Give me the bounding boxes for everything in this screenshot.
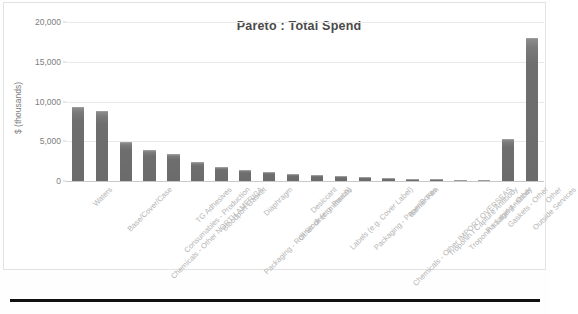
bar [191,162,203,181]
x-axis-labels: WatersBase/Cover/CaseChemicals - Other N… [66,183,544,271]
y-tick-label: 10,000 [35,97,61,107]
x-tick-label: Base/Cover/Case [125,185,173,233]
bar [167,154,179,181]
bar-series [66,22,544,181]
chart-frame: Pareto : Total Spend $ (thousands) 05,00… [3,2,546,270]
bar [239,170,251,181]
y-axis-title: $ (thousands) [13,63,23,153]
bar [215,167,227,181]
bar [143,150,155,181]
bar [96,111,108,181]
bar [72,107,84,181]
bar [263,172,275,181]
bar [287,174,299,181]
y-tick-label: 5,000 [40,136,61,146]
bar [502,139,514,181]
y-tick-label: 20,000 [35,17,61,27]
y-tick-label: 15,000 [35,57,61,67]
y-tick-label: 0 [56,176,61,186]
bar [120,142,132,181]
bar [526,38,538,181]
bottom-divider-rule [10,299,540,302]
plot-area: 05,00010,00015,00020,000 [66,22,544,181]
x-tick-label: Waters [91,185,114,208]
x-axis-line [66,181,544,182]
